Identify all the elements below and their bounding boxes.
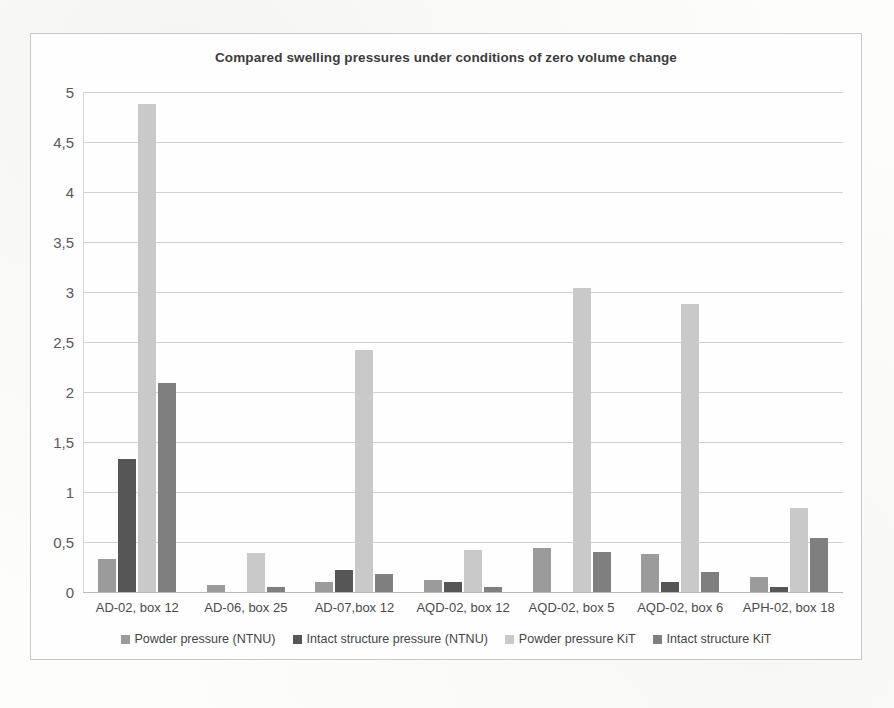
bar[interactable] — [681, 304, 699, 592]
y-axis-tick-label: 1 — [66, 484, 74, 501]
bar[interactable] — [661, 582, 679, 592]
legend-label: Powder pressure KiT — [519, 632, 636, 646]
bar[interactable] — [573, 288, 591, 592]
page-background: Compared swelling pressures under condit… — [0, 0, 894, 708]
chart-legend: Powder pressure (NTNU)Intact structure p… — [31, 632, 861, 646]
x-axis-category-label: AQD-02, box 6 — [626, 600, 735, 615]
bar[interactable] — [701, 572, 719, 592]
y-axis-tick-label: 0,5 — [53, 534, 74, 551]
bar[interactable] — [464, 550, 482, 592]
chart-frame: Compared swelling pressures under condit… — [30, 33, 862, 660]
y-axis-tick-label: 2 — [66, 384, 74, 401]
y-axis-tick-label: 1,5 — [53, 434, 74, 451]
bar[interactable] — [138, 104, 156, 592]
bar[interactable] — [158, 383, 176, 592]
bar-groups — [83, 92, 843, 592]
x-axis-category-labels: AD-02, box 12AD-06, box 25AD-07,box 12AQ… — [83, 600, 843, 615]
x-axis-category-label: AD-07,box 12 — [300, 600, 409, 615]
bar[interactable] — [207, 585, 225, 592]
y-axis-tick-label: 5 — [66, 84, 74, 101]
x-axis-category-label: AD-02, box 12 — [83, 600, 192, 615]
y-axis-tick-label: 2,5 — [53, 334, 74, 351]
bar-group — [626, 92, 735, 592]
plot-area: 54,543,532,521,510,50 — [83, 92, 843, 592]
chart-title: Compared swelling pressures under condit… — [31, 50, 861, 65]
bar[interactable] — [355, 350, 373, 592]
bar[interactable] — [484, 587, 502, 593]
bar[interactable] — [770, 587, 788, 592]
legend-item[interactable]: Powder pressure (NTNU) — [121, 632, 276, 646]
legend-swatch-icon — [505, 635, 514, 644]
bar-group — [409, 92, 518, 592]
bar-group — [734, 92, 843, 592]
y-axis-tick-label: 3,5 — [53, 234, 74, 251]
y-axis-tick-label: 4 — [66, 184, 74, 201]
legend-label: Intact structure pressure (NTNU) — [307, 632, 488, 646]
bar[interactable] — [267, 587, 285, 593]
x-axis-category-label: AQD-02, box 5 — [517, 600, 626, 615]
legend-item[interactable]: Intact structure KiT — [653, 632, 772, 646]
bar[interactable] — [375, 574, 393, 592]
legend-swatch-icon — [653, 635, 662, 644]
legend-label: Powder pressure (NTNU) — [135, 632, 276, 646]
bar-group — [83, 92, 192, 592]
legend-item[interactable]: Intact structure pressure (NTNU) — [293, 632, 488, 646]
bar[interactable] — [98, 559, 116, 592]
bar-group — [517, 92, 626, 592]
bar[interactable] — [641, 554, 659, 592]
y-axis-tick-label: 3 — [66, 284, 74, 301]
bar-group — [300, 92, 409, 592]
x-axis-category-label: APH-02, box 18 — [734, 600, 843, 615]
bar[interactable] — [593, 552, 611, 592]
y-axis-tick-label: 4,5 — [53, 134, 74, 151]
legend-label: Intact structure KiT — [667, 632, 772, 646]
bar[interactable] — [118, 459, 136, 592]
gridline: 0 — [83, 592, 843, 593]
legend-swatch-icon — [293, 635, 302, 644]
bar[interactable] — [315, 582, 333, 592]
legend-item[interactable]: Powder pressure KiT — [505, 632, 636, 646]
bar[interactable] — [424, 580, 442, 592]
legend-swatch-icon — [121, 635, 130, 644]
x-axis-category-label: AD-06, box 25 — [192, 600, 301, 615]
bar-group — [192, 92, 301, 592]
bar[interactable] — [790, 508, 808, 592]
x-axis-category-label: AQD-02, box 12 — [409, 600, 518, 615]
bar[interactable] — [444, 582, 462, 592]
bar[interactable] — [810, 538, 828, 592]
bar[interactable] — [533, 548, 551, 592]
bar[interactable] — [750, 577, 768, 592]
bar[interactable] — [335, 570, 353, 592]
bar[interactable] — [247, 553, 265, 592]
y-axis-tick-label: 0 — [66, 584, 74, 601]
